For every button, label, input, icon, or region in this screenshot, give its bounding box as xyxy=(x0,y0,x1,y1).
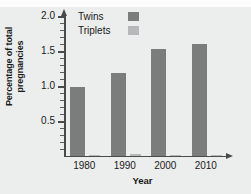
chart-figure: Percentage of total pregnancies 0.51.01.… xyxy=(0,0,251,194)
y-axis-tick-label: 1.0 xyxy=(15,80,55,91)
bar-twins xyxy=(192,44,207,156)
legend-swatch xyxy=(128,12,139,21)
legend-label: Triplets xyxy=(78,25,122,36)
x-axis-title: Year xyxy=(60,175,225,186)
y-axis-title: Percentage of total pregnancies xyxy=(4,4,25,130)
x-axis-tick-label: 2000 xyxy=(142,160,188,171)
y-axis-tick-label: 0.5 xyxy=(15,115,55,126)
bar-group xyxy=(145,16,186,156)
bar-group xyxy=(186,16,227,156)
x-axis-tick-label: 1990 xyxy=(102,160,148,171)
y-axis-tick-label: 2.0 xyxy=(15,10,55,21)
bar-triplets xyxy=(170,155,181,156)
x-axis-tick-label: 1980 xyxy=(61,160,107,171)
y-axis-tick-label: 1.5 xyxy=(15,45,55,56)
y-axis-title-line1: Percentage of total xyxy=(4,27,14,106)
legend: TwinsTriplets xyxy=(78,10,139,38)
bar-triplets xyxy=(130,154,141,156)
bar-twins xyxy=(151,49,166,156)
bar-twins xyxy=(111,73,126,156)
x-axis-arrow-icon xyxy=(226,153,233,159)
bar-triplets xyxy=(89,155,100,156)
x-axis-tick-label: 2010 xyxy=(183,160,229,171)
legend-item: Twins xyxy=(78,10,139,23)
legend-label: Twins xyxy=(78,11,122,22)
y-axis-title-line2: pregnancies xyxy=(14,4,25,130)
bar-twins xyxy=(70,87,85,156)
top-white-band xyxy=(0,0,251,7)
legend-swatch xyxy=(128,26,139,35)
bar-triplets xyxy=(211,155,222,156)
y-axis-arrow-icon xyxy=(61,9,67,16)
legend-item: Triplets xyxy=(78,24,139,37)
